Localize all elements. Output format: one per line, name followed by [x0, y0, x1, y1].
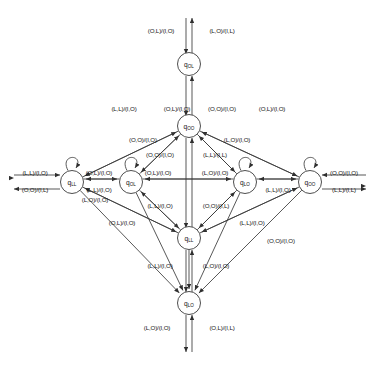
transition-label: (O,O)/(I,O): [267, 238, 295, 244]
transition-label: (L,L)/(I,O): [111, 106, 136, 112]
self-loop-edge: [304, 157, 316, 170]
transition-label: (O,L)/(I,O): [109, 220, 136, 226]
state-label: qLO: [240, 179, 250, 186]
transition-label: (O,L)/(I,O): [148, 28, 175, 34]
transition-label: (O,L)/(I,O): [164, 106, 191, 112]
transition-label: (L,O)/(I,O): [82, 197, 109, 203]
transition-label: (L,O)/(I,O): [144, 325, 171, 331]
transition-label: (O,L)/(I,O): [145, 170, 172, 176]
state-diagram: qOLqOOqLLqOLqLOqOOqLLqLO(O,L)/(I,O)(L,O)…: [0, 0, 380, 366]
self-loop-edge: [66, 157, 78, 170]
transition-label: (L,O)/(I,O): [202, 170, 229, 176]
transition-label: (L,L)/(I,O): [86, 187, 111, 193]
state-label: qLL: [185, 235, 194, 242]
transition-edge: [199, 188, 297, 233]
transition-label: (O,O)/(I,O): [146, 152, 174, 158]
transition-label: (L,L)/(I,O): [265, 187, 290, 193]
transition-label: (L,L)/(I,L): [332, 187, 356, 193]
node-group: [61, 53, 322, 315]
transition-label: (L,O)/(I,O): [224, 137, 251, 143]
state-label: qOL: [126, 179, 136, 186]
transition-label: (O,L)/(I,O): [259, 106, 286, 112]
transition-label: (O,O)/(I,L): [22, 187, 49, 193]
state-label: qLO: [184, 300, 194, 307]
state-label: qOO: [305, 179, 316, 186]
transition-label: (L,L)/(I,O): [22, 170, 47, 176]
state-label: qLL: [68, 179, 77, 186]
transition-edge: [197, 192, 235, 230]
transition-label: (O,O)/(I,O): [129, 137, 157, 143]
transition-label: (O,O)/(I,O): [208, 106, 236, 112]
state-label: qOL: [184, 61, 194, 68]
self-loop-edge: [125, 157, 137, 170]
transition-edge: [85, 188, 179, 233]
transition-label: (L,L)/(I,O): [147, 203, 172, 209]
transition-label: (O,L)/(I,O): [86, 170, 113, 176]
transition-label: (L,L)/(I,L): [203, 152, 227, 158]
transition-label: (L,O)/(I,L): [209, 28, 234, 34]
diagram-canvas: [0, 0, 380, 366]
transition-label: (O,L)/(I,L): [209, 325, 234, 331]
state-label: qOO: [184, 123, 195, 130]
transition-label: (O,O)/(I,L): [203, 203, 230, 209]
transition-label: (L,L)/(I,O): [239, 220, 264, 226]
transition-label: (L,L)/(I,O): [147, 263, 172, 269]
self-loop-edge: [239, 157, 251, 170]
transition-label: (O,O)/(I,O): [330, 170, 358, 176]
transition-label: (L,O)/(I,O): [203, 263, 230, 269]
